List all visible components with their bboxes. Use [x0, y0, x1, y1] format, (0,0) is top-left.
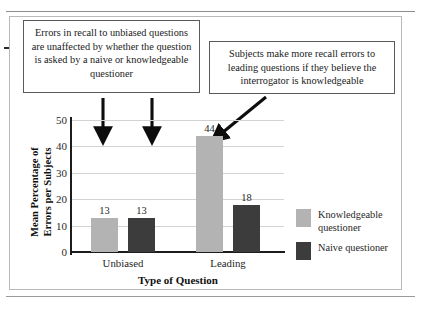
- legend-item-naive[interactable]: Naive questioner: [296, 242, 398, 260]
- y-tick-label-30: 30: [56, 167, 67, 179]
- page-top-rule: [6, 11, 415, 12]
- gridline-20: [72, 199, 284, 200]
- gridline-40: [72, 146, 284, 147]
- legend-swatch-knowledgeable-icon: [296, 209, 311, 227]
- figure-root: Errors in recall to unbiased questions a…: [0, 0, 421, 315]
- y-tick-label-40: 40: [56, 140, 67, 152]
- x-axis-title: Type of Question: [138, 274, 218, 286]
- y-axis-title: Mean Percentage of Errors per Subjects: [28, 130, 54, 254]
- y-tick-label-0: 0: [62, 246, 68, 258]
- bar-leading-naive[interactable]: 18: [233, 205, 260, 253]
- annotation-callout-unbiased: Errors in recall to unbiased questions a…: [23, 20, 200, 93]
- chart-legend: Knowledgeable questioner Naive questione…: [296, 209, 398, 267]
- legend-label-knowledgeable: Knowledgeable questioner: [318, 209, 398, 235]
- x-tick-label-unbiased: Unbiased: [103, 257, 144, 269]
- y-axis-title-line-2: Errors per Subjects: [41, 130, 54, 254]
- legend-swatch-naive-icon: [296, 242, 311, 260]
- bar-value-label: 44: [204, 123, 215, 134]
- gridline-30: [72, 173, 284, 174]
- bar-unbiased-naive[interactable]: 13: [128, 218, 155, 252]
- x-tick-label-leading: Leading: [210, 257, 245, 269]
- legend-label-naive: Naive questioner: [318, 242, 388, 255]
- annotation-callout-leading: Subjects make more recall errors to lead…: [209, 41, 395, 94]
- bar-unbiased-knowledgeable[interactable]: 13: [91, 218, 118, 252]
- y-tick-label-10: 10: [56, 220, 67, 232]
- page-bottom-rule: [6, 296, 415, 297]
- legend-item-knowledgeable[interactable]: Knowledgeable questioner: [296, 209, 398, 235]
- y-tick-label-20: 20: [56, 193, 67, 205]
- bar-value-label: 18: [241, 192, 252, 203]
- y-tick-label-50: 50: [56, 114, 67, 126]
- y-axis-title-line-1: Mean Percentage of: [28, 130, 41, 254]
- bar-value-label: 13: [99, 205, 110, 216]
- bar-value-label: 13: [136, 205, 147, 216]
- gridline-50: [72, 120, 284, 121]
- plot-area: 50 40 30 20 10 0 13 13 44 18: [72, 120, 284, 252]
- bar-leading-knowledgeable[interactable]: 44: [196, 136, 223, 252]
